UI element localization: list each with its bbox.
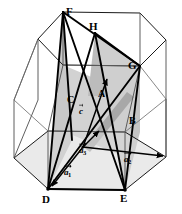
vector-label-a2: a2 bbox=[124, 155, 132, 164]
vector-label-a1: a1 bbox=[64, 168, 72, 177]
vector-label-c-text: c bbox=[79, 106, 83, 116]
vector-label-a2-subscript: 2 bbox=[128, 158, 131, 165]
region-label-A: A bbox=[98, 89, 105, 99]
vertex-label-H: H bbox=[89, 21, 98, 32]
region-label-C: C bbox=[67, 95, 74, 105]
region-label-B: B bbox=[129, 116, 136, 126]
vertex-label-D: D bbox=[42, 194, 50, 205]
vertex-label-F: F bbox=[66, 6, 73, 17]
vector-label-a3-subscript: 3 bbox=[83, 149, 86, 156]
hexagonal-crystal-diagram: F H G D E A B C c a3 a2 a1 bbox=[0, 0, 182, 214]
shaded-planes bbox=[14, 12, 166, 190]
edge-D-E bbox=[48, 189, 125, 190]
vector-label-a1-subscript: 1 bbox=[68, 171, 71, 178]
vector-label-c: c bbox=[79, 107, 83, 116]
vertex-label-E: E bbox=[120, 193, 127, 204]
dot-D bbox=[46, 187, 50, 191]
vertex-label-G: G bbox=[128, 60, 137, 71]
figure-svg bbox=[0, 0, 182, 214]
vector-label-a3: a3 bbox=[79, 146, 87, 155]
